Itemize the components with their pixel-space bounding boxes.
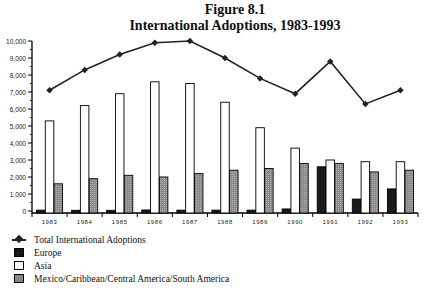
x-tick-label: 1986	[147, 219, 163, 225]
line-point-total	[116, 51, 123, 58]
bar-europe	[282, 209, 291, 213]
line-point-total	[257, 75, 264, 82]
y-tick-label: 10,000	[6, 38, 26, 45]
y-tick-label: 2,000	[10, 174, 27, 181]
bar-europe	[247, 210, 256, 213]
y-tick-label: 7,000	[10, 89, 27, 96]
bar-europe	[352, 199, 361, 213]
white-swatch-icon	[14, 261, 24, 270]
bar-latin-america	[335, 163, 344, 213]
bar-asia	[396, 162, 405, 213]
bar-latin-america	[300, 163, 309, 213]
x-tick-label: 1984	[77, 219, 93, 225]
bar-latin-america	[124, 175, 133, 213]
bar-europe	[72, 210, 81, 213]
bar-latin-america	[159, 177, 168, 213]
bar-europe	[177, 210, 186, 213]
y-tick-label: 8,000	[10, 72, 27, 79]
line-point-total	[152, 39, 159, 46]
line-point-total	[397, 87, 404, 94]
bar-europe	[387, 189, 396, 213]
y-tick-label: 9,000	[10, 55, 27, 62]
bar-asia	[256, 128, 265, 213]
x-tick-label: 1990	[287, 219, 303, 225]
y-tick-label: 3,000	[10, 157, 27, 164]
line-point-total	[46, 87, 53, 94]
line-total-adoptions	[50, 41, 401, 104]
legend-label: Mexico/Caribbean/Central America/South A…	[34, 274, 229, 284]
x-tick-label: 1991	[322, 219, 338, 225]
x-tick-label: 1989	[252, 219, 268, 225]
y-tick-label: 1,000	[10, 191, 27, 198]
y-tick-label: 0	[22, 208, 26, 215]
bar-europe	[36, 210, 45, 213]
legend-label: Total International Adoptions	[34, 235, 146, 245]
bar-europe	[317, 167, 326, 213]
bar-latin-america	[230, 170, 239, 213]
line-point-total	[81, 67, 88, 74]
bar-asia	[80, 106, 89, 213]
bar-latin-america	[54, 184, 63, 213]
legend: Total International Adoptions Europe Asi…	[14, 233, 229, 285]
bar-latin-america	[370, 172, 379, 213]
bar-asia	[291, 148, 300, 213]
gray-swatch-icon	[14, 274, 24, 283]
y-tick-label: 4,000	[10, 140, 27, 147]
legend-item-latin-america: Mexico/Caribbean/Central America/South A…	[14, 272, 229, 285]
legend-item-asia: Asia	[14, 259, 229, 272]
bar-asia	[361, 162, 370, 213]
bar-europe	[212, 210, 221, 213]
bar-latin-america	[265, 169, 274, 214]
y-tick-label: 6,000	[10, 106, 27, 113]
legend-item-europe: Europe	[14, 246, 229, 259]
bar-latin-america	[405, 170, 414, 213]
legend-label: Asia	[34, 261, 51, 271]
x-tick-label: 1987	[182, 219, 198, 225]
x-tick-label: 1993	[393, 219, 409, 225]
bar-asia	[186, 84, 195, 214]
bar-asia	[326, 160, 335, 213]
legend-item-total: Total International Adoptions	[14, 233, 229, 246]
bar-europe	[107, 210, 116, 213]
line-point-total	[222, 55, 229, 62]
bar-latin-america	[89, 179, 98, 213]
x-tick-label: 1988	[217, 219, 233, 225]
bar-asia	[151, 82, 160, 213]
bar-europe	[142, 210, 151, 213]
bar-asia	[115, 94, 124, 213]
x-tick-label: 1983	[42, 219, 58, 225]
bar-asia	[221, 102, 230, 213]
line-point-total	[187, 38, 194, 45]
y-tick-label: 5,000	[10, 123, 27, 130]
bar-latin-america	[194, 174, 203, 213]
legend-label: Europe	[34, 248, 61, 258]
black-swatch-icon	[14, 248, 24, 257]
line-marker-icon	[14, 235, 24, 244]
x-tick-label: 1992	[357, 219, 373, 225]
x-tick-label: 1985	[112, 219, 128, 225]
bar-asia	[45, 121, 54, 213]
